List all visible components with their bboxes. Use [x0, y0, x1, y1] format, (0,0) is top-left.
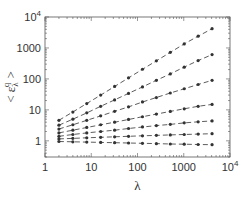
data-point: [127, 118, 130, 121]
data-point: [127, 92, 130, 95]
data-point: [183, 133, 186, 136]
data-point: [85, 126, 88, 129]
x-tick-label: 1000: [172, 161, 196, 173]
exponent: 4: [37, 9, 42, 18]
data-point: [113, 121, 116, 124]
data-point: [155, 79, 158, 82]
data-point: [141, 100, 144, 103]
data-point: [169, 142, 172, 145]
data-point: [99, 123, 102, 126]
data-point: [127, 141, 130, 144]
series-line: [59, 104, 212, 132]
data-point: [71, 123, 74, 126]
data-point: [99, 130, 102, 133]
data-point: [183, 121, 186, 124]
data-point: [113, 129, 116, 132]
data-point: [127, 76, 130, 79]
data-point: [197, 35, 200, 38]
data-point: [113, 85, 116, 88]
series-2: [57, 53, 213, 127]
series-layer: [57, 27, 213, 146]
data-point: [99, 114, 102, 117]
exponent: 4: [234, 159, 239, 168]
data-point: [113, 135, 116, 138]
series-3: [57, 79, 213, 131]
series-line: [59, 134, 212, 139]
data-point: [155, 134, 158, 137]
series-line: [59, 80, 212, 129]
x-tick-label: 100: [128, 161, 146, 173]
data-point: [210, 27, 213, 30]
series-line: [59, 55, 212, 126]
data-point: [197, 59, 200, 62]
data-point: [141, 142, 144, 145]
data-point: [57, 119, 60, 122]
y-tick-label: 104: [24, 9, 41, 23]
data-point: [141, 125, 144, 128]
data-point: [183, 66, 186, 69]
data-point: [155, 124, 158, 127]
chart-svg: 11010010001041101001000104λ< ελq >: [0, 0, 248, 197]
data-point: [85, 102, 88, 105]
y-tick-label: 1: [35, 135, 41, 147]
data-point: [155, 112, 158, 115]
data-point: [99, 141, 102, 144]
y-axis-label-sup: q: [1, 82, 11, 87]
data-point: [210, 79, 213, 82]
data-point: [183, 143, 186, 146]
data-point: [141, 85, 144, 88]
data-point: [169, 91, 172, 94]
y-axis-label: < ελq >: [1, 71, 20, 103]
data-point: [183, 42, 186, 45]
data-point: [210, 53, 213, 56]
data-point: [99, 105, 102, 108]
data-point: [85, 136, 88, 139]
data-point: [197, 120, 200, 123]
data-point: [183, 107, 186, 110]
data-point: [183, 87, 186, 90]
data-point: [71, 118, 74, 121]
data-point: [99, 136, 102, 139]
data-point: [155, 59, 158, 62]
data-point: [71, 133, 74, 136]
y-tick-label: 100: [23, 73, 41, 85]
data-point: [113, 98, 116, 101]
data-point: [155, 142, 158, 145]
data-point: [57, 124, 60, 127]
series-6: [57, 132, 213, 140]
data-point: [155, 96, 158, 99]
data-point: [85, 111, 88, 114]
data-point: [141, 68, 144, 71]
series-5: [57, 119, 213, 138]
data-point: [169, 133, 172, 136]
data-point: [113, 110, 116, 113]
data-point: [99, 93, 102, 96]
data-point: [127, 105, 130, 108]
y-tick-label: 1000: [17, 42, 41, 54]
data-point: [169, 72, 172, 75]
data-point: [57, 127, 60, 130]
data-point: [210, 143, 213, 146]
data-point: [210, 103, 213, 106]
data-point: [85, 119, 88, 122]
x-tick-label: 10: [85, 161, 97, 173]
data-point: [169, 51, 172, 54]
data-point: [71, 140, 74, 143]
data-point: [169, 110, 172, 113]
data-point: [197, 105, 200, 108]
data-point: [57, 140, 60, 143]
data-point: [197, 132, 200, 135]
data-point: [85, 131, 88, 134]
axis-labels: 11010010001041101001000104λ< ελq >: [1, 9, 239, 193]
x-tick-label: 1: [42, 161, 48, 173]
series-1: [57, 27, 213, 122]
series-line: [59, 142, 212, 145]
data-point: [113, 141, 116, 144]
y-tick-label: 10: [29, 104, 41, 116]
data-point: [85, 140, 88, 143]
data-point: [57, 131, 60, 134]
y-axis-label-tail: >: [3, 71, 18, 82]
data-point: [71, 129, 74, 132]
data-point: [210, 119, 213, 122]
series-7: [57, 140, 213, 146]
